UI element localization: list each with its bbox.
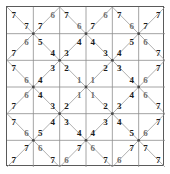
- cell-digit: 7: [51, 155, 56, 164]
- cell-digit: 1: [91, 91, 96, 100]
- cell-digit: 4: [91, 128, 96, 137]
- cell-digit: 7: [143, 22, 148, 31]
- cell-digit: 5: [130, 128, 135, 137]
- cell-digit: 6: [24, 128, 29, 137]
- cell-digit: 1: [77, 91, 82, 100]
- cell-digit: 6: [64, 155, 69, 164]
- cell-digit: 2: [64, 64, 69, 73]
- cell-digit: 7: [77, 144, 82, 153]
- cell-digit: 3: [51, 64, 56, 73]
- cell-digit: 7: [130, 144, 135, 153]
- cell-digit: 5: [38, 37, 43, 46]
- digit-layer: 7767766776776754434354677634212134766743…: [7, 7, 165, 167]
- cell-digit: 7: [12, 155, 17, 164]
- cell-digit: 4: [91, 37, 96, 46]
- cell-digit: 6: [91, 144, 96, 153]
- cell-digit: 6: [38, 144, 43, 153]
- cell-digit: 7: [156, 64, 161, 73]
- cell-digit: 6: [51, 11, 56, 20]
- cell-digit: 7: [12, 11, 17, 20]
- puzzle-diagram: 7767766776776754434354677634212134766743…: [0, 0, 170, 174]
- cell-digit: 7: [12, 102, 17, 111]
- cell-digit: 7: [24, 144, 29, 153]
- cell-digit: 4: [51, 117, 56, 126]
- cell-digit: 6: [77, 22, 82, 31]
- cell-digit: 7: [143, 144, 148, 153]
- cell-digit: 1: [91, 75, 96, 84]
- cell-digit: 6: [117, 155, 122, 164]
- cell-digit: 7: [156, 102, 161, 111]
- cell-digit: 7: [24, 22, 29, 31]
- cell-digit: 7: [12, 48, 17, 57]
- cell-digit: 6: [143, 37, 148, 46]
- cell-digit: 6: [103, 11, 108, 20]
- cell-digit: 2: [64, 102, 69, 111]
- cell-digit: 3: [117, 64, 122, 73]
- cell-digit: 6: [24, 37, 29, 46]
- cell-digit: 4: [38, 75, 43, 84]
- cell-digit: 7: [156, 117, 161, 126]
- cell-digit: 6: [143, 128, 148, 137]
- cell-digit: 7: [12, 117, 17, 126]
- cell-digit: 3: [103, 48, 108, 57]
- cell-digit: 7: [156, 155, 161, 164]
- cell-digit: 7: [156, 48, 161, 57]
- cell-digit: 3: [64, 117, 69, 126]
- cell-digit: 1: [77, 75, 82, 84]
- cell-digit: 7: [91, 22, 96, 31]
- cell-digit: 3: [117, 102, 122, 111]
- cell-digit: 7: [117, 11, 122, 20]
- cell-digit: 6: [143, 75, 148, 84]
- grid-frame: 7767766776776754434354677634212134766743…: [6, 6, 164, 166]
- cell-digit: 7: [156, 11, 161, 20]
- cell-digit: 4: [77, 128, 82, 137]
- cell-digit: 7: [64, 11, 69, 20]
- cell-digit: 7: [38, 22, 43, 31]
- cell-digit: 4: [51, 48, 56, 57]
- cell-digit: 3: [103, 117, 108, 126]
- cell-digit: 3: [51, 102, 56, 111]
- cell-digit: 7: [12, 64, 17, 73]
- cell-digit: 6: [24, 75, 29, 84]
- cell-digit: 5: [38, 128, 43, 137]
- cell-digit: 4: [130, 75, 135, 84]
- cell-digit: 7: [103, 155, 108, 164]
- cell-digit: 2: [103, 102, 108, 111]
- cell-digit: 4: [117, 48, 122, 57]
- cell-digit: 4: [38, 91, 43, 100]
- cell-digit: 3: [64, 48, 69, 57]
- cell-digit: 6: [130, 22, 135, 31]
- cell-digit: 6: [24, 91, 29, 100]
- cell-digit: 4: [117, 117, 122, 126]
- cell-digit: 6: [143, 91, 148, 100]
- cell-digit: 4: [77, 37, 82, 46]
- cell-digit: 5: [130, 37, 135, 46]
- cell-digit: 2: [103, 64, 108, 73]
- cell-digit: 4: [130, 91, 135, 100]
